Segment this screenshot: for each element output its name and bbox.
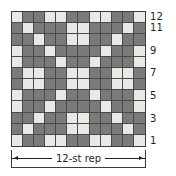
grid-cell [78, 23, 89, 34]
repeat-arrow-right-icon [105, 158, 145, 159]
grid-cell [78, 57, 89, 68]
grid-cell [34, 46, 45, 57]
row-number-axis: 121197531 [150, 11, 174, 147]
grid-cell [101, 57, 112, 68]
grid-cell [90, 79, 101, 90]
grid-cell [78, 113, 89, 124]
grid-cell [23, 57, 34, 68]
grid-cell [23, 79, 34, 90]
row-number-label: 9 [150, 46, 157, 56]
grid-cell [78, 46, 89, 57]
grid-cell [67, 90, 78, 101]
grid-cell [23, 46, 34, 57]
grid-cell [78, 34, 89, 45]
grid-cell [67, 124, 78, 135]
grid-cell [101, 135, 112, 146]
grid-cell [78, 135, 89, 146]
grid-cell [112, 90, 123, 101]
grid-cell [23, 68, 34, 79]
grid-cell [56, 124, 67, 135]
grid-cell [112, 46, 123, 57]
grid-cell [67, 135, 78, 146]
grid-cell [101, 113, 112, 124]
grid-cell [134, 23, 145, 34]
grid-cell [67, 23, 78, 34]
grid-cell [101, 23, 112, 34]
grid-cell [123, 57, 134, 68]
grid-cell [101, 90, 112, 101]
row-number-label: 3 [150, 114, 157, 124]
grid-cell [134, 101, 145, 112]
grid-cell [12, 135, 23, 146]
grid-cell [56, 113, 67, 124]
grid-cell [12, 34, 23, 45]
grid-cell [90, 12, 101, 23]
grid-cell [67, 34, 78, 45]
grid-cell [45, 34, 56, 45]
grid-cell [134, 34, 145, 45]
grid-cell [12, 79, 23, 90]
grid-cell [12, 101, 23, 112]
row-number-label: 5 [150, 91, 157, 101]
grid-cell [123, 101, 134, 112]
grid-cell [112, 101, 123, 112]
grid-cell [34, 68, 45, 79]
grid-cell [45, 90, 56, 101]
grid-cell [101, 46, 112, 57]
grid-cell [101, 101, 112, 112]
grid-cell [112, 79, 123, 90]
grid-cell [12, 124, 23, 135]
grid-cell [112, 57, 123, 68]
grid-cell [56, 34, 67, 45]
grid-cell [123, 12, 134, 23]
grid-cell [101, 124, 112, 135]
grid-cell [123, 46, 134, 57]
grid-cell [134, 113, 145, 124]
grid-cell [112, 12, 123, 23]
grid-cell [123, 34, 134, 45]
grid-cell [112, 68, 123, 79]
grid-cell [134, 79, 145, 90]
grid-cell [56, 79, 67, 90]
grid-cell [78, 79, 89, 90]
grid-cell [90, 34, 101, 45]
grid-cell [67, 101, 78, 112]
grid-cell [45, 12, 56, 23]
grid-cell [90, 68, 101, 79]
grid-cell [34, 57, 45, 68]
grid-cell [90, 90, 101, 101]
grid-cell [67, 57, 78, 68]
repeat-arrow-left-icon [12, 158, 52, 159]
grid-cell [34, 79, 45, 90]
grid-cell [56, 46, 67, 57]
grid-cell [56, 23, 67, 34]
row-number-label: 7 [150, 68, 157, 78]
grid-cell [56, 12, 67, 23]
chart-figure: 121197531 12-st rep [0, 0, 176, 176]
grid-cell [78, 12, 89, 23]
grid-cell [12, 90, 23, 101]
grid-cell [23, 23, 34, 34]
grid-cell [134, 57, 145, 68]
grid-cell [56, 135, 67, 146]
grid-cell [90, 124, 101, 135]
grid-cell [112, 135, 123, 146]
grid-cell [23, 12, 34, 23]
grid-cell [34, 23, 45, 34]
grid-cell [23, 113, 34, 124]
grid-cell [23, 90, 34, 101]
grid-cell [101, 68, 112, 79]
grid-cell [90, 23, 101, 34]
grid-cell [34, 12, 45, 23]
grid-cell [134, 46, 145, 57]
grid-cell [12, 68, 23, 79]
grid-cell [23, 135, 34, 146]
grid-cell [12, 23, 23, 34]
grid-cell [112, 34, 123, 45]
grid-cell [56, 57, 67, 68]
grid-cell [23, 101, 34, 112]
grid-cell [45, 101, 56, 112]
row-number-label: 11 [150, 23, 163, 33]
grid-cell [12, 113, 23, 124]
grid-cell [45, 124, 56, 135]
